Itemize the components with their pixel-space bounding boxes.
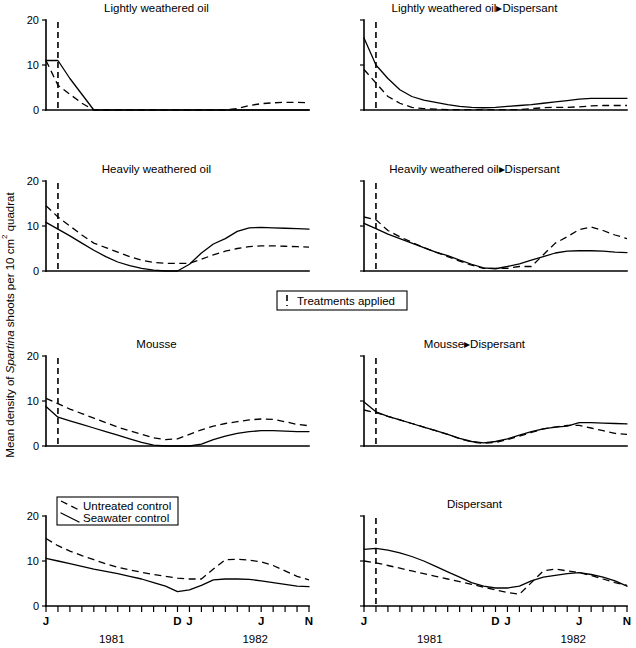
year-label-1982: 1982: [242, 633, 268, 645]
panel-mousse: 01020Mousse: [27, 338, 309, 452]
y-tick-label: 20: [27, 14, 39, 26]
series-solid-heavily-weathered-oil: [46, 222, 309, 271]
treatments-applied-legend: Treatments applied: [277, 291, 407, 310]
panel-title-lightly-weathered-oil: Lightly weathered oil: [104, 2, 209, 14]
panel-title-lightly-weathered-oil-dispersant: Lightly weathered oil▸Dispersant: [392, 2, 559, 14]
y-tick-label: 10: [27, 395, 39, 407]
y-axis-label: Mean density of Spartina shoots per 10 c…: [0, 192, 16, 458]
series-dashed-lightly-weathered-oil-dispersant: [364, 70, 627, 110]
y-axis-label-text: Mean density of Spartina shoots per 10 c…: [0, 192, 16, 458]
y-tick-label: 10: [27, 555, 39, 567]
series-dashed-dispersant: [364, 561, 627, 594]
y-tick-label: 20: [27, 350, 39, 362]
panel-lightly-weathered-oil-dispersant: Lightly weathered oil▸Dispersant: [360, 2, 627, 110]
panel-title-mousse-dispersant: Mousse▸Dispersant: [424, 338, 526, 350]
y-tick-label: 10: [27, 220, 39, 232]
series-dashed-lightly-weathered-oil: [46, 61, 309, 111]
panel-heavily-weathered-oil: 01020Heavily weathered oil: [27, 163, 309, 277]
series-dashed-heavily-weathered-oil: [46, 206, 309, 264]
series-solid-lightly-weathered-oil-dispersant: [364, 38, 627, 108]
series-solid-mousse-dispersant: [364, 402, 627, 443]
y-tick-label: 0: [33, 104, 39, 116]
series-solid-untreated-seawater-controls: [46, 558, 309, 591]
x-tick-label-J: J: [504, 615, 510, 627]
series-solid-mousse: [46, 406, 309, 446]
x-tick-label-D: D: [173, 615, 181, 627]
x-tick-label-N: N: [305, 615, 313, 627]
panel-title-dispersant: Dispersant: [447, 498, 503, 510]
series-dashed-heavily-weathered-oil-dispersant: [364, 217, 627, 268]
treatments-applied-label: Treatments applied: [297, 295, 395, 307]
legend-label-untreated-control: Untreated control: [83, 500, 171, 512]
series-legend: Untreated controlSeawater control: [57, 497, 178, 525]
panel-title-heavily-weathered-oil-dispersant: Heavily weathered oil▸Dispersant: [389, 163, 560, 175]
panel-lightly-weathered-oil: 01020Lightly weathered oil: [27, 2, 309, 116]
series-dashed-untreated-seawater-controls: [46, 539, 309, 580]
x-tick-label-D: D: [491, 615, 499, 627]
panel-dispersant: JDJJN19811982Dispersant: [360, 498, 631, 645]
x-tick-label-J: J: [258, 615, 264, 627]
y-tick-label: 20: [27, 510, 39, 522]
y-tick-label: 0: [33, 600, 39, 612]
x-tick-label-J: J: [186, 615, 192, 627]
series-dashed-mousse: [46, 398, 309, 439]
year-label-1981: 1981: [417, 633, 443, 645]
panel-untreated-seawater-controls: 01020JDJJN19811982: [27, 510, 313, 645]
series-dashed-mousse-dispersant: [364, 410, 627, 443]
series-solid-heavily-weathered-oil-dispersant: [364, 223, 627, 268]
figure-container: 01020Lightly weathered oilLightly weathe…: [0, 0, 636, 648]
year-label-1981: 1981: [99, 633, 125, 645]
y-tick-label: 0: [33, 440, 39, 452]
panel-mousse-dispersant: Mousse▸Dispersant: [360, 338, 627, 446]
panel-title-heavily-weathered-oil: Heavily weathered oil: [102, 163, 211, 175]
spartina-density-figure: 01020Lightly weathered oilLightly weathe…: [0, 0, 636, 648]
panel-title-mousse: Mousse: [136, 338, 176, 350]
x-tick-label-J: J: [576, 615, 582, 627]
panel-heavily-weathered-oil-dispersant: Heavily weathered oil▸Dispersant: [360, 163, 627, 271]
y-tick-label: 0: [33, 265, 39, 277]
y-tick-label: 10: [27, 59, 39, 71]
y-tick-label: 20: [27, 175, 39, 187]
year-label-1982: 1982: [560, 633, 586, 645]
x-tick-label-N: N: [623, 615, 631, 627]
series-solid-dispersant: [364, 548, 627, 588]
legend-label-seawater-control: Seawater control: [83, 512, 169, 524]
x-tick-label-J: J: [361, 615, 367, 627]
x-tick-label-J: J: [43, 615, 49, 627]
